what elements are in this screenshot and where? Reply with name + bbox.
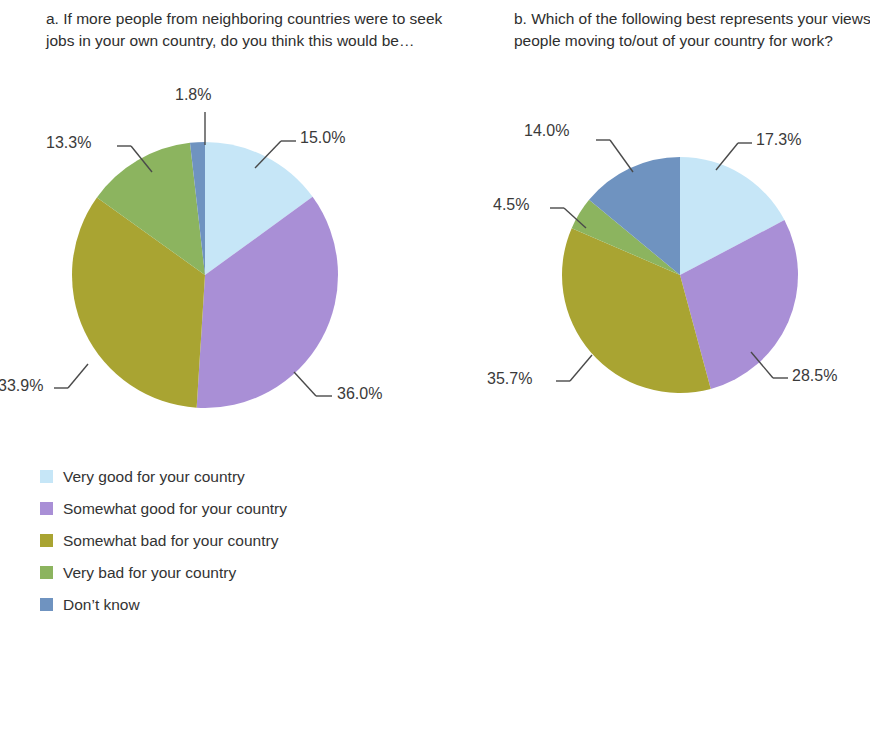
legend-swatch-a-2 — [40, 534, 53, 547]
legend-swatch-a-0 — [40, 470, 53, 483]
chart-a-callout-very-good: 15.0% — [300, 129, 345, 147]
chart-b-callout-none-of-above: 14.0% — [524, 122, 569, 140]
chart-a-callout-somewhat-bad: 33.9% — [0, 377, 43, 395]
legend-item[interactable]: Somewhat good for your country — [40, 498, 440, 519]
chart-a-callout-dont-know: 1.8% — [175, 86, 211, 104]
chart-b-callout-unskilled-leaving: 4.5% — [493, 196, 529, 214]
chart-b-callout-unskilled-coming: 28.5% — [792, 367, 837, 385]
legend-swatch-a-3 — [40, 566, 53, 579]
legend-item[interactable]: Don’t know — [40, 594, 440, 615]
chart-panel-b: b. Which of the following best represent… — [470, 0, 870, 744]
chart-panel-a: a. If more people from neighboring count… — [0, 0, 470, 744]
legend-label: Very bad for your country — [63, 562, 236, 583]
legend-item[interactable]: Very good for your country — [40, 466, 440, 487]
legend-item[interactable]: Somewhat bad for your country — [40, 530, 440, 551]
legend-label: Don’t know — [63, 594, 140, 615]
chart-b-leader-lines — [470, 0, 870, 470]
legend-swatch-a-4 — [40, 598, 53, 611]
legend-label: Very good for your country — [63, 466, 245, 487]
chart-a-legend: Very good for your countrySomewhat good … — [40, 466, 440, 626]
chart-a-callout-very-bad: 13.3% — [46, 134, 91, 152]
chart-a-callout-somewhat-good: 36.0% — [337, 385, 382, 403]
chart-a-leader-lines — [0, 0, 470, 470]
legend-swatch-a-1 — [40, 502, 53, 515]
legend-item[interactable]: Very bad for your country — [40, 562, 440, 583]
chart-b-callout-skilled-leaving: 35.7% — [487, 370, 532, 388]
legend-label: Somewhat good for your country — [63, 498, 287, 519]
chart-b-callout-skilled-coming: 17.3% — [756, 131, 801, 149]
legend-label: Somewhat bad for your country — [63, 530, 278, 551]
